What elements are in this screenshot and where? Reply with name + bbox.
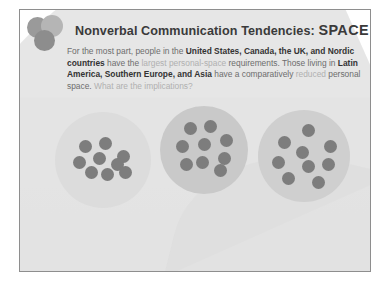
person-dot [180, 158, 193, 171]
body-dim-2: reduced [296, 69, 326, 79]
person-dot [204, 120, 217, 133]
person-dot [73, 156, 86, 169]
body-seg-1: For the most part, people in the [67, 46, 186, 56]
large-personal-space-diagram [258, 110, 350, 202]
person-dot [324, 140, 337, 153]
person-dot [99, 137, 112, 150]
person-dot [101, 168, 114, 181]
person-dot [119, 166, 132, 179]
person-dot [312, 176, 325, 189]
person-dot [278, 136, 291, 149]
person-dot [79, 140, 92, 153]
body-seg-3: requirements. Those living in [226, 58, 338, 68]
person-dot [198, 138, 211, 151]
person-dot [302, 124, 315, 137]
page-title-emphasis: SPACE [318, 22, 369, 38]
person-dot [302, 160, 315, 173]
body-dim-1: largest personal-space [142, 58, 227, 68]
person-dot [220, 134, 233, 147]
body-dim-3: What are the implications? [94, 81, 193, 91]
person-dot [322, 158, 335, 171]
person-dot [184, 122, 197, 135]
page-title: Nonverbal Communication Tendencies: SPAC… [75, 22, 369, 38]
medium-personal-space-diagram [160, 106, 248, 194]
person-dot [296, 146, 309, 159]
body-seg-2: have the [105, 58, 142, 68]
close-personal-space-diagram [55, 112, 151, 208]
person-dot [176, 140, 189, 153]
page-title-main: Nonverbal Communication Tendencies: [75, 24, 315, 38]
person-dot [93, 152, 106, 165]
personal-space-diagrams [20, 98, 371, 218]
body-seg-4: have a comparatively [212, 69, 296, 79]
person-dot [214, 164, 227, 177]
logo-circle-3 [34, 30, 55, 51]
person-dot [282, 172, 295, 185]
overlapping-circles-logo [27, 15, 69, 57]
person-dot [196, 156, 209, 169]
person-dot [85, 166, 98, 179]
person-dot [218, 152, 231, 165]
body-paragraph: For the most part, people in the United … [67, 46, 367, 92]
person-dot [272, 156, 285, 169]
slide-frame: Nonverbal Communication Tendencies: SPAC… [19, 9, 371, 272]
